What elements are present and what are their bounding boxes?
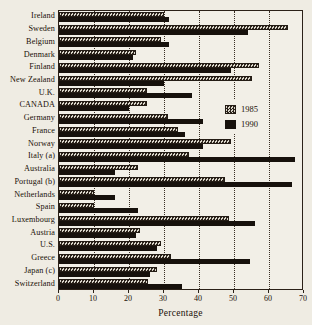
legend-label-1990: 1990 [241, 119, 258, 129]
bar-1990 [59, 144, 203, 149]
bar-chart: IrelandSwedenBelgiumDenmarkFinlandNew Ze… [0, 0, 312, 325]
bar-1990 [59, 284, 182, 289]
tick-mark-30 [163, 290, 164, 293]
tick-mark-60 [268, 290, 269, 293]
category-label: Finland [0, 62, 55, 71]
bar-1990 [59, 55, 133, 60]
category-label: Netherlands [0, 190, 55, 199]
tick-label-40: 40 [194, 294, 202, 304]
category-label: CANADA [0, 100, 55, 109]
bar-1990 [59, 233, 136, 238]
tick-label-30: 30 [159, 294, 167, 304]
bar-group [59, 50, 302, 63]
bar-group [59, 267, 302, 280]
bar-group [59, 165, 302, 178]
legend-swatch-1985 [225, 105, 236, 114]
x-axis-title: Percentage [58, 307, 303, 319]
bar-group [59, 190, 302, 203]
category-label: U.K. [0, 88, 55, 97]
category-label: Norway [0, 139, 55, 148]
bar-group [59, 254, 302, 267]
tick-label-0: 0 [56, 294, 60, 304]
tick-mark-40 [198, 290, 199, 293]
bar-group [59, 203, 302, 216]
bar-1990 [59, 170, 115, 175]
tick-label-70: 70 [299, 294, 307, 304]
bar-1990 [59, 93, 192, 98]
bar-group [59, 114, 302, 127]
bar-1990 [59, 195, 115, 200]
category-label: Germany [0, 113, 55, 122]
category-label: Greece [0, 253, 55, 262]
bar-1990 [59, 119, 203, 124]
category-label: Switzerland [0, 279, 55, 288]
category-label: Belgium [0, 37, 55, 46]
bar-1990 [59, 157, 295, 162]
bar-1990 [59, 106, 129, 111]
category-label: Denmark [0, 50, 55, 59]
category-label: Italy (a) [0, 151, 55, 160]
bar-1990 [59, 17, 169, 22]
bar-1990 [59, 246, 157, 251]
tick-mark-20 [128, 290, 129, 293]
bar-group [59, 177, 302, 190]
bar-1990 [59, 208, 138, 213]
x-axis-tick-labels: 010203040506070 [58, 294, 303, 306]
category-label: U.S. [0, 240, 55, 249]
tick-mark-0 [58, 290, 59, 293]
category-label: New Zealand [0, 75, 55, 84]
tick-mark-50 [233, 290, 234, 293]
plot-area [58, 10, 303, 290]
bar-group [59, 63, 302, 76]
bar-group [59, 88, 302, 101]
bar-group [59, 152, 302, 165]
bar-group [59, 279, 302, 290]
tick-label-10: 10 [89, 294, 97, 304]
legend-swatch-1990 [225, 120, 236, 129]
category-label: Australia [0, 164, 55, 173]
tick-mark-70 [303, 290, 304, 293]
bar-group [59, 127, 302, 140]
bar-group [59, 228, 302, 241]
bar-group [59, 12, 302, 25]
bar-1990 [59, 259, 250, 264]
bar-1990 [59, 68, 231, 73]
category-axis-labels: IrelandSwedenBelgiumDenmarkFinlandNew Ze… [0, 10, 55, 290]
category-label: France [0, 126, 55, 135]
category-label: Ireland [0, 11, 55, 20]
tick-label-50: 50 [229, 294, 237, 304]
category-label: Spain [0, 202, 55, 211]
category-label: Portugal (b) [0, 177, 55, 186]
bar-1990 [59, 42, 169, 47]
category-label: Luxembourg [0, 215, 55, 224]
bar-group [59, 76, 302, 89]
bar-group [59, 216, 302, 229]
bar-1990 [59, 182, 292, 187]
bar-1990 [59, 221, 255, 226]
tick-mark-10 [93, 290, 94, 293]
bar-group [59, 139, 302, 152]
bar-1990 [59, 30, 248, 35]
bar-group [59, 241, 302, 254]
legend-label-1985: 1985 [241, 104, 258, 114]
tick-label-60: 60 [264, 294, 272, 304]
category-label: Austria [0, 228, 55, 237]
legend-entry-1990: 1990 [225, 118, 258, 130]
bar-group [59, 101, 302, 114]
bars-container [59, 11, 302, 289]
bar-group [59, 25, 302, 38]
bar-1990 [59, 132, 185, 137]
bar-group [59, 37, 302, 50]
category-label: Sweden [0, 24, 55, 33]
bar-1990 [59, 272, 150, 277]
tick-label-20: 20 [124, 294, 132, 304]
legend-entry-1985: 1985 [225, 103, 258, 115]
chart-legend: 1985 1990 [222, 100, 262, 133]
bar-1990 [59, 81, 164, 86]
category-label: Japan (c) [0, 266, 55, 275]
